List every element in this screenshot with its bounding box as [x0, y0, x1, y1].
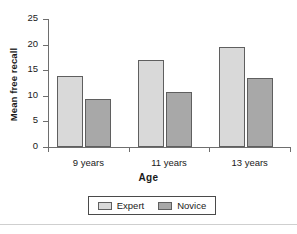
y-axis-tick-label: 0 — [16, 140, 38, 151]
plot-area: 0510152025 9 years11 years13 years — [48, 19, 290, 147]
chart-legend: ExpertNovice — [88, 196, 216, 215]
bar-expert-9-years — [57, 76, 83, 147]
bottom-divider — [0, 224, 297, 225]
x-axis-tick — [129, 147, 130, 152]
y-axis-tick-label: 5 — [16, 114, 38, 125]
y-axis-tick — [43, 19, 48, 20]
legend-swatch-icon — [158, 202, 172, 210]
legend-item-expert: Expert — [98, 200, 144, 211]
x-axis-line — [48, 147, 290, 148]
bar-expert-13-years — [219, 47, 245, 147]
x-axis-category-label: 13 years — [231, 157, 267, 168]
bar-expert-11-years — [138, 60, 164, 147]
y-axis-tick — [43, 70, 48, 71]
x-axis-tick — [48, 147, 49, 152]
x-axis-tick — [290, 147, 291, 152]
x-axis-category-label: 9 years — [73, 157, 104, 168]
y-axis-tick-label: 15 — [16, 63, 38, 74]
y-axis-line — [48, 19, 49, 147]
x-axis-title: Age — [0, 172, 297, 183]
y-axis-title-text: Mean free recall — [9, 47, 20, 120]
y-axis-tick-label: 25 — [16, 12, 38, 23]
bar-novice-13-years — [247, 78, 273, 147]
bar-chart-figure: Mean free recall 0510152025 9 years11 ye… — [0, 0, 297, 234]
y-axis-tick — [43, 45, 48, 46]
x-axis-category-label: 11 years — [151, 157, 187, 168]
legend-label: Novice — [177, 200, 206, 211]
bar-novice-11-years — [166, 92, 192, 147]
legend-item-novice: Novice — [158, 200, 206, 211]
legend-swatch-icon — [98, 202, 112, 210]
y-axis-tick-label: 10 — [16, 89, 38, 100]
bar-novice-9-years — [85, 99, 111, 147]
y-axis-tick — [43, 121, 48, 122]
y-axis-tick — [43, 96, 48, 97]
y-axis-tick-label: 20 — [16, 38, 38, 49]
legend-label: Expert — [117, 200, 144, 211]
x-axis-tick — [209, 147, 210, 152]
